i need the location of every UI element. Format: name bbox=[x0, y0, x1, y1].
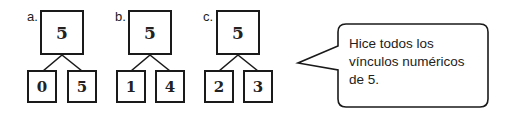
bond-c-part-1: 2 bbox=[204, 70, 234, 103]
bond-label-b: b. bbox=[115, 9, 126, 24]
bond-b-whole: 5 bbox=[128, 10, 172, 55]
bond-a-part-2: 5 bbox=[67, 70, 97, 103]
bubble-line-1: Hice todos los bbox=[349, 35, 479, 53]
speech-bubble-text: Hice todos los vínculos numéricos de 5. bbox=[349, 35, 479, 89]
bond-b-part-1: 1 bbox=[116, 70, 146, 103]
bond-label-c: c. bbox=[203, 9, 213, 24]
bond-a-part-1: 0 bbox=[27, 70, 57, 103]
bond-label-a: a. bbox=[27, 9, 38, 24]
bubble-line-3: de 5. bbox=[349, 71, 479, 89]
bubble-line-2: vínculos numéricos bbox=[349, 53, 479, 71]
bond-b-part-2: 4 bbox=[155, 70, 185, 103]
bond-c-whole: 5 bbox=[216, 10, 260, 55]
bond-c-part-2: 3 bbox=[243, 70, 273, 103]
bond-a-whole: 5 bbox=[40, 10, 84, 55]
